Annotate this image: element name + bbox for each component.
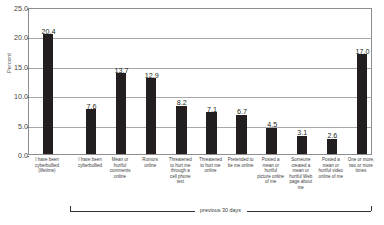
bracket-line xyxy=(247,211,372,212)
y-tick-label: 20.0 xyxy=(6,33,28,42)
bar xyxy=(176,106,187,154)
plot-area: 20.47.613.712.98.27.16.74.53.12.617.0 xyxy=(28,8,372,155)
bar xyxy=(327,139,338,154)
y-tick-mark xyxy=(27,9,30,10)
y-tick-mark xyxy=(27,68,30,69)
y-tick-label: 0.0 xyxy=(6,151,28,160)
bar xyxy=(236,115,247,154)
gridline xyxy=(29,97,371,98)
bar-value-label: 17.0 xyxy=(356,47,370,56)
bar-value-label: 8.2 xyxy=(177,98,187,107)
x-tick-label: Pretended to be me online xyxy=(227,157,254,168)
x-tick-label: Someone created a mean or hurtful Web pa… xyxy=(287,157,314,191)
gridline xyxy=(29,127,371,128)
bar-value-label: 6.7 xyxy=(237,107,247,116)
gridline xyxy=(29,38,371,39)
x-tick-label: I have been cyberbullied xyxy=(77,157,104,168)
x-tick-label: I have been cyberbullied (lifetime) xyxy=(30,157,64,174)
bar xyxy=(357,54,368,154)
bar-value-label: 13.7 xyxy=(115,66,129,75)
bar-chart: Percent 0.05.010.015.020.025.0 20.47.613… xyxy=(0,0,384,225)
bar xyxy=(146,78,157,154)
bar-value-label: 2.6 xyxy=(327,131,337,140)
bar xyxy=(116,73,127,154)
x-tick-label: Posted a mean or hurtful picture online … xyxy=(257,157,284,185)
x-tick-label: Threatened to hurt me online xyxy=(197,157,224,174)
bracket-cap xyxy=(70,206,71,211)
bar xyxy=(206,112,217,154)
y-tick-mark xyxy=(27,156,30,157)
x-tick-label: One or more, two or more times xyxy=(348,157,375,174)
y-axis-ticks: 0.05.010.015.020.025.0 xyxy=(0,0,28,225)
y-tick-label: 5.0 xyxy=(6,121,28,130)
bar xyxy=(266,128,277,154)
y-tick-label: 25.0 xyxy=(6,4,28,13)
y-tick-mark xyxy=(27,127,30,128)
bar-value-label: 20.4 xyxy=(42,27,56,36)
bar-value-label: 7.1 xyxy=(207,105,217,114)
bar-value-label: 4.5 xyxy=(267,120,277,129)
gridline xyxy=(29,68,371,69)
bar xyxy=(86,109,97,154)
bar-value-label: 3.1 xyxy=(297,128,307,137)
x-tick-label: Posted a mean or hurtful video online of… xyxy=(317,157,344,179)
x-tick-label: Threatened to hurt me through a cell pho… xyxy=(167,157,194,185)
bar xyxy=(43,34,54,154)
bracket-cap xyxy=(371,206,372,211)
y-tick-label: 10.0 xyxy=(6,92,28,101)
x-tick-label: Rumors online xyxy=(137,157,164,168)
bar-value-label: 7.6 xyxy=(87,102,97,111)
y-tick-mark xyxy=(27,38,30,39)
bar xyxy=(297,136,308,154)
y-tick-label: 15.0 xyxy=(6,62,28,71)
bracket-line xyxy=(70,211,195,212)
bar-value-label: 12.9 xyxy=(145,71,159,80)
x-tick-label: Mean or hurtful comments online xyxy=(107,157,134,179)
y-tick-mark xyxy=(27,97,30,98)
bracket-label: previous 30 days xyxy=(198,207,243,213)
